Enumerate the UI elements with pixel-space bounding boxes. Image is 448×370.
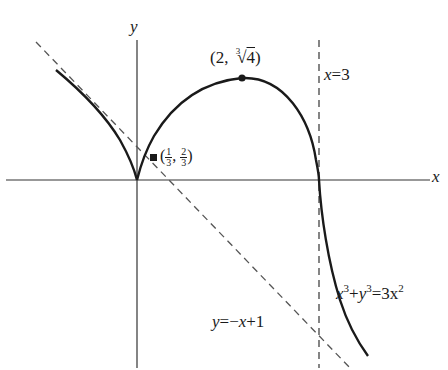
max-point-prefix: (2, bbox=[210, 48, 233, 67]
eq: =− bbox=[220, 312, 239, 331]
oblique-asymptote bbox=[36, 42, 352, 370]
rest: =3 bbox=[332, 65, 350, 84]
root-index: 3 bbox=[236, 46, 241, 56]
vertical-asymptote-label: x=3 bbox=[324, 66, 350, 83]
x: x bbox=[336, 284, 344, 303]
rhs: 3x bbox=[381, 284, 398, 303]
var: y bbox=[212, 312, 220, 331]
max-point-dot bbox=[238, 74, 245, 81]
var: x bbox=[324, 65, 332, 84]
radicand: 4 bbox=[247, 48, 256, 67]
x-axis-label: x bbox=[432, 168, 440, 185]
separator: , bbox=[172, 147, 180, 164]
max-point-suffix: ) bbox=[255, 48, 261, 67]
eq: = bbox=[372, 284, 382, 303]
y-axis-label: y bbox=[130, 18, 138, 35]
tangent-point-dot bbox=[150, 154, 157, 161]
rest: +1 bbox=[246, 312, 264, 331]
curve-right-branch bbox=[319, 180, 368, 356]
paren-close: ) bbox=[187, 147, 192, 164]
curve-left-branch bbox=[56, 70, 137, 180]
equation-label: x3+y3=3x2 bbox=[336, 283, 404, 302]
exp: 2 bbox=[398, 282, 404, 294]
tangent-point-label: (13, 23) bbox=[160, 147, 193, 168]
oblique-asymptote-label: y=−x+1 bbox=[212, 313, 264, 330]
max-point-label: (2, 3√4) bbox=[210, 49, 261, 66]
plus: + bbox=[349, 284, 359, 303]
